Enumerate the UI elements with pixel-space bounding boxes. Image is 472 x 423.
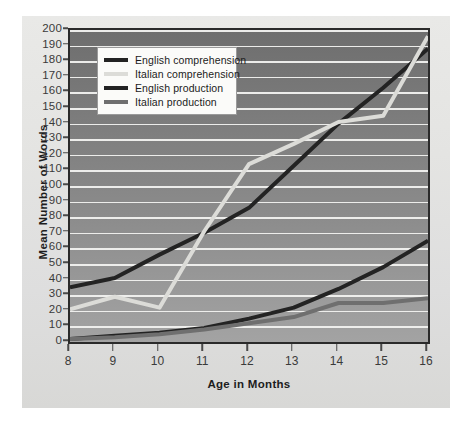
x-axis-tick-mark — [67, 344, 69, 351]
y-axis-tick-label: 90 — [49, 194, 62, 206]
legend-item-label: Italian production — [135, 96, 217, 108]
x-axis-tick-label: 15 — [375, 354, 388, 368]
x-axis-tick-label: 11 — [196, 354, 208, 368]
y-axis-tick-label: 120 — [42, 147, 62, 159]
legend-item: English production — [104, 81, 229, 95]
x-axis: 8910111213141516 — [68, 344, 430, 374]
y-axis-tick-label: 10 — [49, 318, 62, 330]
legend-item-label: Italian comprehension — [135, 68, 240, 80]
y-axis-tick-label: 150 — [42, 100, 62, 112]
legend-swatch-icon — [104, 58, 128, 62]
y-axis-tick-label: 100 — [42, 178, 62, 190]
legend-item: Italian comprehension — [104, 67, 229, 81]
legend-swatch-icon — [104, 72, 128, 76]
y-axis-tick-label: 170 — [42, 69, 62, 81]
y-axis-tick-label: 110 — [43, 162, 62, 174]
x-axis-tick-label: 12 — [240, 354, 253, 368]
y-axis-tick-label: 70 — [49, 225, 62, 237]
y-axis-tick-label: 0 — [55, 334, 62, 346]
y-axis-tick-label: 20 — [49, 303, 62, 315]
y-axis-tick-label: 200 — [42, 22, 62, 34]
x-axis-tick-mark — [291, 344, 293, 351]
legend-item: Italian production — [104, 95, 229, 109]
x-axis-tick-mark — [157, 344, 159, 351]
y-axis-tick-label: 160 — [42, 84, 62, 96]
y-axis-tick-label: 140 — [42, 116, 62, 128]
y-axis-tick-label: 40 — [49, 272, 62, 284]
chart-figure: Mean Number of Words 0102030405060708090… — [0, 0, 472, 423]
y-axis-tick-label: 80 — [49, 209, 62, 221]
x-axis-tick-mark — [202, 344, 204, 351]
y-axis-tick-label: 130 — [42, 131, 62, 143]
x-axis-tick-mark — [246, 344, 248, 351]
x-axis-tick-label: 13 — [285, 354, 298, 368]
x-axis-title: Age in Months — [68, 378, 430, 390]
x-axis-tick-mark — [112, 344, 114, 351]
y-axis-title: Mean Number of Words — [37, 125, 49, 260]
y-axis-tick-label: 30 — [49, 287, 62, 299]
legend-swatch-icon — [104, 100, 128, 104]
y-axis-tick-label: 60 — [49, 240, 62, 252]
chart-legend: English comprehensionItalian comprehensi… — [97, 47, 237, 115]
x-axis-tick-mark — [425, 344, 427, 351]
legend-item: English comprehension — [104, 53, 229, 67]
x-axis-tick-mark — [381, 344, 383, 351]
y-axis-tick-label: 180 — [42, 53, 62, 65]
legend-item-label: English comprehension — [135, 54, 246, 66]
legend-swatch-icon — [104, 86, 128, 90]
x-axis-tick-label: 14 — [330, 354, 343, 368]
x-axis-tick-mark — [336, 344, 338, 351]
x-axis-tick-label: 16 — [419, 354, 432, 368]
x-axis-tick-label: 9 — [109, 354, 116, 368]
y-axis-tick-label: 190 — [42, 38, 62, 50]
x-axis-tick-label: 8 — [65, 354, 72, 368]
y-axis-tick-label: 50 — [49, 256, 62, 268]
x-axis-tick-label: 10 — [151, 354, 164, 368]
legend-item-label: English production — [135, 82, 223, 94]
